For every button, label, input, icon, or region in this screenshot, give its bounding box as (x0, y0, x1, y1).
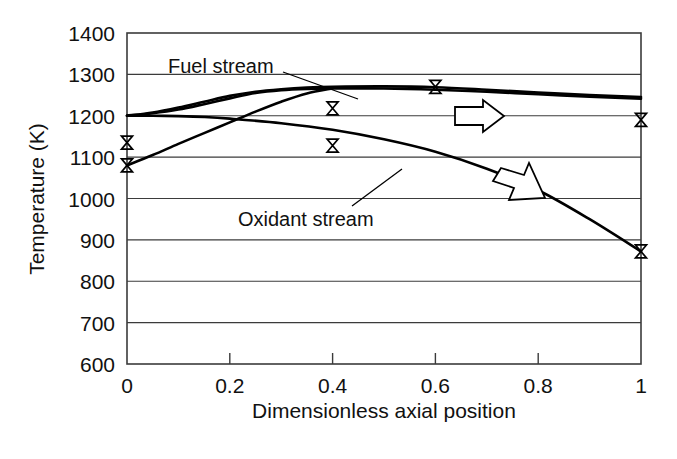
x-tick-label-1: 1 (635, 374, 647, 397)
y-tick-label-1000: 1000 (68, 188, 115, 211)
y-tick-label-900: 900 (80, 229, 115, 252)
y-tick-label-1200: 1200 (68, 105, 115, 128)
y-tick-label-1300: 1300 (68, 63, 115, 86)
fuel-stream-label: Fuel stream (168, 55, 274, 77)
y-tick-label-800: 800 (80, 270, 115, 293)
x-axis-tick-labels: 00.20.40.60.81 (121, 374, 647, 397)
y-tick-label-1100: 1100 (70, 146, 115, 169)
x-tick-label-0: 0 (121, 374, 133, 397)
temperature-axial-position-chart: 60070080090010001100120013001400 00.20.4… (0, 0, 677, 459)
x-tick-label-0.2: 0.2 (215, 374, 244, 397)
y-tick-label-700: 700 (80, 312, 115, 335)
y-tick-label-1400: 1400 (68, 22, 115, 45)
x-axis-title: Dimensionless axial position (252, 399, 516, 422)
chart-figure: 60070080090010001100120013001400 00.20.4… (0, 0, 677, 459)
y-axis-title: Temperature (K) (25, 123, 48, 275)
x-tick-label-0.6: 0.6 (421, 374, 450, 397)
oxidant-stream-label: Oxidant stream (238, 208, 374, 230)
x-tick-label-0.8: 0.8 (524, 374, 553, 397)
y-axis-tick-labels: 60070080090010001100120013001400 (68, 22, 115, 376)
x-tick-label-0.4: 0.4 (318, 374, 348, 397)
y-tick-label-600: 600 (80, 353, 115, 376)
